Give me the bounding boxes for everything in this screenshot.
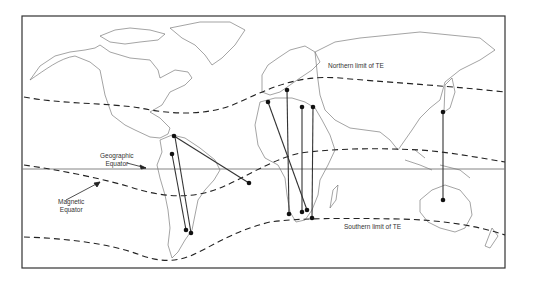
- geographic-equator-label: Geographic Equator: [100, 152, 134, 168]
- world-map-figure: [0, 0, 548, 283]
- southern-limit-label: Southern limit of TE: [344, 223, 401, 231]
- map-frame: [22, 16, 505, 268]
- magnetic-equator-label: Magnetic Equator: [58, 198, 84, 214]
- northern-limit-label: Northern limit of TE: [328, 62, 384, 70]
- magnetic-equator-label-line1: Magnetic: [58, 198, 84, 206]
- geographic-equator-label-line1: Geographic: [100, 152, 134, 160]
- geographic-equator-label-line2: Equator: [100, 160, 134, 168]
- magnetic-equator-label-line2: Equator: [58, 206, 84, 214]
